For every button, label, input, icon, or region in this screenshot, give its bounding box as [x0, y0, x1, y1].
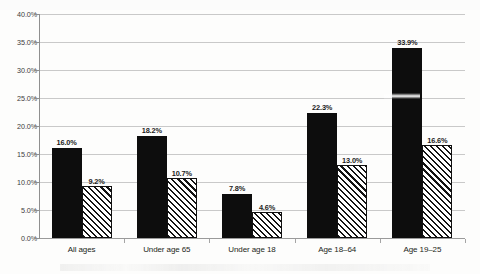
x-axis-separator-tick: [124, 239, 125, 243]
bar-group: 18.2%10.7%: [137, 14, 197, 238]
x-axis-separator-tick: [465, 239, 466, 243]
x-axis-label: All ages: [39, 245, 124, 254]
bars-layer: 16.0%9.2%18.2%10.7%7.8%4.6%22.3%13.0%33.…: [39, 14, 465, 238]
y-tick-label: 15.0%: [3, 150, 37, 159]
y-tick-label: 40.0%: [3, 10, 37, 19]
bar-value-label: 9.2%: [88, 177, 104, 186]
bar-value-label: 16.0%: [56, 138, 76, 147]
scan-haze-artifact: [0, 0, 480, 10]
y-tick-label: 20.0%: [3, 122, 37, 131]
bar-value-label: 18.2%: [142, 126, 162, 135]
cut-off-caption-artifact: [60, 264, 430, 271]
bar-solid[interactable]: 33.9%: [392, 48, 422, 238]
y-tick-label: 30.0%: [3, 66, 37, 75]
y-axis-ticks: 0.0%5.0%10.0%15.0%20.0%25.0%30.0%35.0%40…: [0, 0, 37, 274]
bar-value-label: 16.6%: [427, 136, 447, 145]
bar-hatched[interactable]: 4.6%: [252, 212, 282, 238]
bar-hatched[interactable]: 16.6%: [422, 145, 452, 238]
x-axis-label: Under age 18: [209, 245, 294, 254]
bar-group: 33.9%16.6%: [392, 14, 452, 238]
x-axis-label: Age 18–64: [295, 245, 380, 254]
x-axis-label: Age 19–25: [380, 245, 465, 254]
bar-hatched[interactable]: 9.2%: [82, 186, 112, 238]
bar-value-label: 7.8%: [229, 184, 245, 193]
bar-hatched[interactable]: 10.7%: [167, 178, 197, 238]
bar-value-label: 13.0%: [342, 156, 362, 165]
chart-figure: 0.0%5.0%10.0%15.0%20.0%25.0%30.0%35.0%40…: [0, 0, 480, 274]
x-axis-category-labels: All agesUnder age 65Under age 18Age 18–6…: [39, 245, 465, 259]
bar-solid[interactable]: 7.8%: [222, 194, 252, 238]
bar-solid[interactable]: 22.3%: [307, 113, 337, 238]
bar-hatched[interactable]: 13.0%: [337, 165, 367, 238]
y-tick-mark: [35, 238, 39, 239]
bar-solid[interactable]: 16.0%: [52, 148, 82, 238]
bar-group: 16.0%9.2%: [52, 14, 112, 238]
bar-value-label: 4.6%: [259, 203, 275, 212]
y-tick-label: 35.0%: [3, 38, 37, 47]
x-axis-separator-tick: [295, 239, 296, 243]
y-tick-label: 5.0%: [3, 206, 37, 215]
bar-value-label: 33.9%: [397, 38, 417, 47]
y-tick-label: 0.0%: [3, 234, 37, 243]
gridline-0.0: [39, 238, 465, 239]
bar-group: 7.8%4.6%: [222, 14, 282, 238]
y-tick-label: 10.0%: [3, 178, 37, 187]
y-tick-label: 25.0%: [3, 94, 37, 103]
bar-group: 22.3%13.0%: [307, 14, 367, 238]
x-axis-separator-tick: [209, 239, 210, 243]
bar-value-label: 22.3%: [312, 103, 332, 112]
x-axis-separator-tick: [380, 239, 381, 243]
bar-solid[interactable]: 18.2%: [137, 136, 167, 238]
bar-value-label: 10.7%: [172, 169, 192, 178]
x-axis-label: Under age 65: [124, 245, 209, 254]
